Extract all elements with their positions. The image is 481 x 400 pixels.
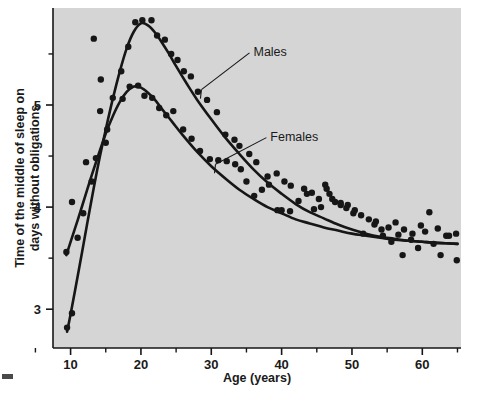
- data-point: [97, 108, 103, 114]
- sleep-midpoint-by-age-chart: 102030405060345 MalesFemales Age (years)…: [0, 0, 481, 400]
- data-point: [295, 198, 301, 204]
- data-point: [316, 196, 322, 202]
- data-point: [125, 44, 131, 50]
- data-point: [318, 204, 324, 210]
- data-point: [304, 191, 310, 197]
- data-point: [222, 131, 228, 137]
- data-point: [110, 95, 116, 101]
- data-point: [323, 186, 329, 192]
- data-point: [154, 32, 160, 38]
- data-point: [401, 226, 407, 232]
- data-point: [426, 209, 432, 215]
- data-point: [132, 19, 138, 25]
- data-point: [388, 239, 394, 245]
- data-point: [409, 230, 415, 236]
- y-axis-title-line1: Time of the middle of sleep on: [13, 88, 27, 268]
- series-label-males: Males: [253, 45, 286, 59]
- data-point: [64, 324, 70, 330]
- data-point: [93, 155, 99, 161]
- data-point: [181, 68, 187, 74]
- data-point: [437, 252, 443, 258]
- data-point: [180, 126, 186, 132]
- data-point: [139, 17, 145, 23]
- data-point: [98, 76, 104, 82]
- x-tick-label: 30: [204, 357, 218, 372]
- data-point: [288, 182, 294, 188]
- series-label-females: Females: [270, 130, 318, 144]
- data-point: [418, 222, 424, 228]
- data-point: [197, 148, 203, 154]
- data-point: [454, 257, 460, 263]
- data-point: [329, 196, 335, 202]
- plot-area-background: [53, 8, 461, 348]
- data-point: [118, 68, 124, 74]
- data-point: [366, 216, 372, 222]
- data-point: [119, 96, 125, 102]
- data-point: [231, 137, 237, 143]
- data-point: [378, 226, 384, 232]
- data-point: [91, 35, 97, 41]
- data-point: [415, 245, 421, 251]
- data-point: [214, 109, 220, 115]
- data-point: [168, 51, 174, 57]
- data-point: [352, 207, 358, 213]
- data-point: [170, 108, 176, 114]
- data-point: [141, 93, 147, 99]
- data-point: [343, 205, 349, 211]
- data-point: [236, 143, 242, 149]
- x-tick-label: 20: [134, 357, 148, 372]
- corner-crop-mark: [2, 374, 13, 379]
- data-point: [162, 36, 168, 42]
- data-point: [74, 235, 80, 241]
- data-point: [188, 135, 194, 141]
- data-point: [453, 230, 459, 236]
- data-point: [69, 199, 75, 205]
- data-point: [264, 173, 270, 179]
- data-point: [80, 210, 86, 216]
- data-point: [148, 17, 154, 23]
- data-point: [195, 89, 201, 95]
- data-point: [408, 237, 414, 243]
- data-point: [259, 187, 265, 193]
- data-point: [281, 178, 287, 184]
- x-tick-label: 10: [63, 357, 77, 372]
- data-point: [207, 156, 213, 162]
- data-point: [311, 206, 317, 212]
- data-point: [243, 178, 249, 184]
- data-point: [446, 232, 452, 238]
- data-point: [69, 310, 75, 316]
- y-axis-title-line2: days without obligations: [28, 105, 42, 252]
- data-point: [274, 170, 280, 176]
- data-point: [287, 208, 293, 214]
- data-point: [278, 207, 284, 213]
- data-point: [156, 105, 162, 111]
- y-tick-label: 3: [34, 302, 41, 317]
- data-point: [266, 181, 272, 187]
- figure-container: 102030405060345 MalesFemales Age (years)…: [0, 0, 481, 400]
- data-point: [435, 225, 441, 231]
- x-axis-title: Age (years): [223, 371, 291, 385]
- data-point: [392, 219, 398, 225]
- data-point: [232, 161, 238, 167]
- data-point: [422, 228, 428, 234]
- data-point: [246, 151, 252, 157]
- data-point: [371, 221, 377, 227]
- data-point: [188, 73, 194, 79]
- data-point: [430, 241, 436, 247]
- data-point: [126, 83, 132, 89]
- data-point: [103, 140, 109, 146]
- data-point: [253, 159, 259, 165]
- data-point: [399, 252, 405, 258]
- data-point: [395, 231, 401, 237]
- data-point: [149, 95, 155, 101]
- x-tick-label: 60: [415, 357, 429, 372]
- data-point: [174, 57, 180, 63]
- data-point: [385, 224, 391, 230]
- x-tick-label: 50: [345, 357, 359, 372]
- data-point: [88, 178, 94, 184]
- data-point: [380, 232, 386, 238]
- data-point: [358, 212, 364, 218]
- data-point: [63, 249, 69, 255]
- data-point: [135, 82, 141, 88]
- data-point: [238, 166, 244, 172]
